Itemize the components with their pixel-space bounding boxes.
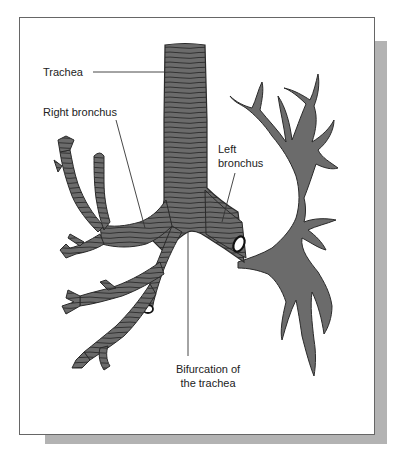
label-bifurcation-line2: the trachea: [158, 376, 258, 390]
label-left-bronchus: Left bronchus: [218, 142, 263, 170]
label-bifurcation: Bifurcation of the trachea: [158, 362, 258, 390]
left-bronchial-tree: [230, 74, 338, 376]
right-bronchus-leader-line: [116, 120, 145, 228]
label-left-bronchus-line2: bronchus: [218, 156, 263, 170]
right-bronchial-tree: [54, 136, 182, 370]
label-trachea: Trachea: [43, 65, 83, 79]
label-bifurcation-line1: Bifurcation of: [158, 362, 258, 376]
label-right-bronchus: Right bronchus: [43, 105, 117, 119]
label-left-bronchus-line1: Left: [218, 142, 263, 156]
